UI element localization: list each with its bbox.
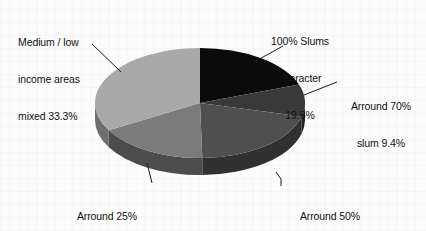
slice-label-mixed-line3: mixed 33.3% [18,110,80,122]
slice-label-slum70-line1: Arround 70% [340,100,422,112]
slice-label-slums100: 100% Slums character 19.6% [254,11,346,145]
slice-label-mixed-line2: income areas [18,73,80,85]
slice-label-mixed-line1: Medium / low [18,36,80,48]
slice-label-slum50-line1: Arround 50% [283,210,377,222]
slice-label-slum70: Arround 70% slum 9.4% [340,76,422,174]
pie-chart-figure: Medium / low income areas mixed 33.3% 10… [0,0,426,231]
slice-label-slums100-line2: character [254,72,346,84]
slice-label-slum70-line2: slum 9.4% [340,137,422,149]
slice-label-mixed: Medium / low income areas mixed 33.3% [18,12,80,146]
slice-label-slum25: Arround 25% slum 17.1% [60,186,154,231]
slice-label-slum25-line1: Arround 25% [60,210,154,222]
slice-label-slums100-line3: 19.6% [254,109,346,121]
leader-line-mixed [92,44,121,72]
leader-line-slum50 [276,172,281,186]
slice-label-slum50: Arround 50% slum 20.7% [283,186,377,231]
slice-label-slums100-line1: 100% Slums [254,35,346,47]
